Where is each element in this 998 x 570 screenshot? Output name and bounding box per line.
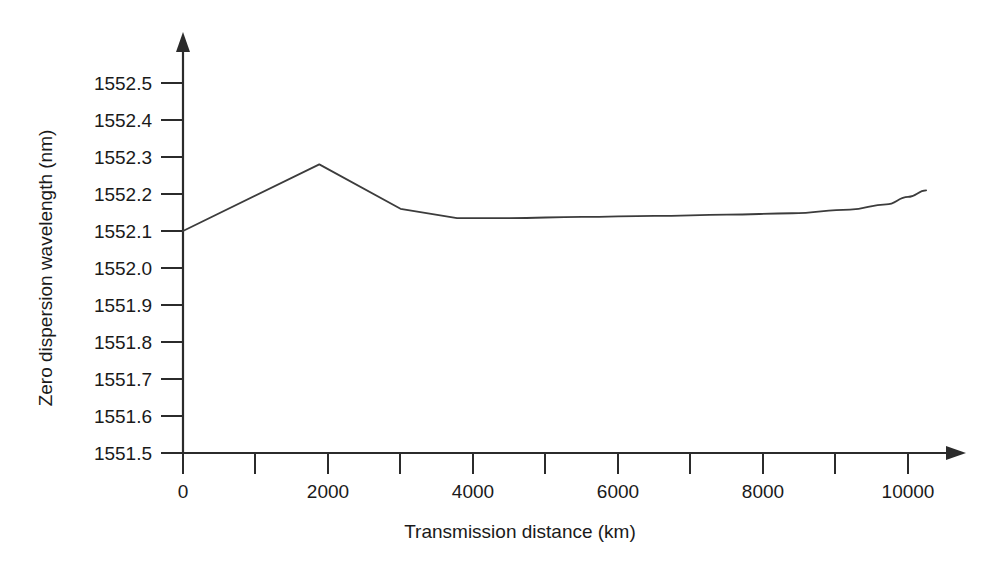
y-tick-1552.2: 1552.2 xyxy=(94,184,183,205)
y-tick-1551.5: 1551.5 xyxy=(94,443,183,464)
chart-figure: 1551.5 1551.6 1551.7 1551.8 1551.9 1552.… xyxy=(0,0,998,570)
x-tick-0: 0 xyxy=(178,453,189,502)
x-tick-6000: 6000 xyxy=(597,453,639,502)
axes-group xyxy=(176,32,966,460)
y-tick-1551.8: 1551.8 xyxy=(94,332,183,353)
y-tick-label: 1551.7 xyxy=(94,369,152,390)
y-axis-ticks: 1551.5 1551.6 1551.7 1551.8 1551.9 1552.… xyxy=(94,73,183,464)
x-tick-label: 10000 xyxy=(882,481,935,502)
x-tick-label: 0 xyxy=(178,481,189,502)
x-tick-label: 6000 xyxy=(597,481,639,502)
y-tick-label: 1552.5 xyxy=(94,73,152,94)
y-tick-label: 1552.3 xyxy=(94,147,152,168)
x-axis-arrow-icon xyxy=(946,446,966,460)
x-tick-2000: 2000 xyxy=(307,453,349,502)
line-chart: 1551.5 1551.6 1551.7 1551.8 1551.9 1552.… xyxy=(0,0,998,570)
y-tick-label: 1551.5 xyxy=(94,443,152,464)
y-tick-label: 1551.8 xyxy=(94,332,152,353)
y-tick-1552.3: 1552.3 xyxy=(94,147,183,168)
data-series-line xyxy=(183,164,926,231)
x-axis-title: Transmission distance (km) xyxy=(404,521,636,542)
y-tick-1551.7: 1551.7 xyxy=(94,369,183,390)
y-axis-arrow-icon xyxy=(176,32,190,52)
y-tick-label: 1552.2 xyxy=(94,184,152,205)
x-tick-label: 8000 xyxy=(742,481,784,502)
y-tick-1552.5: 1552.5 xyxy=(94,73,183,94)
x-tick-10000: 10000 xyxy=(882,453,935,502)
y-tick-label: 1551.9 xyxy=(94,295,152,316)
y-tick-1551.9: 1551.9 xyxy=(94,295,183,316)
y-tick-1552.0: 1552.0 xyxy=(94,258,183,279)
y-tick-label: 1552.4 xyxy=(94,110,153,131)
x-tick-label: 4000 xyxy=(452,481,494,502)
x-axis-ticks: 0 2000 4000 6000 xyxy=(178,453,935,502)
x-tick-4000: 4000 xyxy=(452,453,494,502)
x-tick-8000: 8000 xyxy=(742,453,784,502)
y-axis-title: Zero dispersion wavelength (nm) xyxy=(35,130,56,407)
y-tick-1552.4: 1552.4 xyxy=(94,110,183,131)
y-tick-label: 1551.6 xyxy=(94,406,152,427)
x-tick-label: 2000 xyxy=(307,481,349,502)
y-tick-1552.1: 1552.1 xyxy=(94,221,183,242)
y-tick-label: 1552.1 xyxy=(94,221,152,242)
y-tick-label: 1552.0 xyxy=(94,258,152,279)
y-tick-1551.6: 1551.6 xyxy=(94,406,183,427)
